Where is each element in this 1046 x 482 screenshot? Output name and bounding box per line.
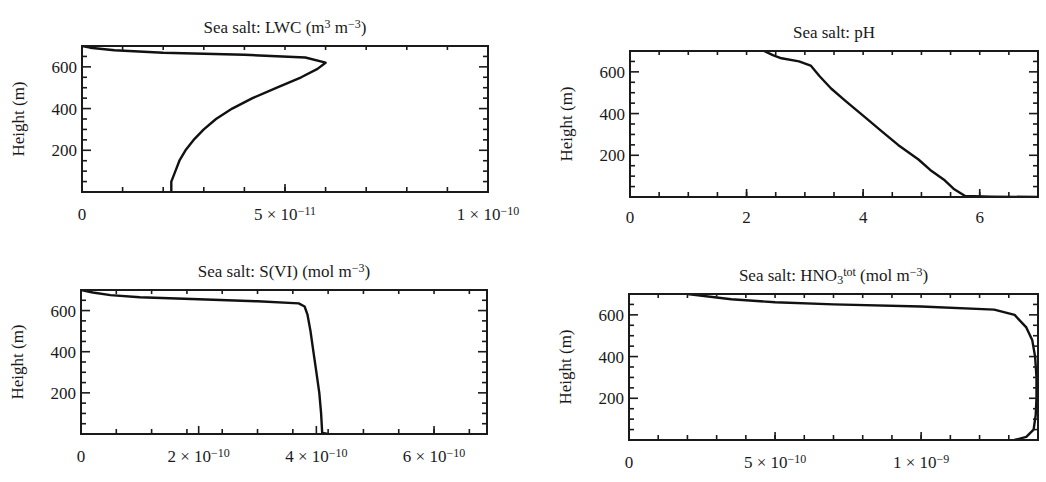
axes-frame xyxy=(630,51,1038,197)
x-tick-label: 2 × 10−10 xyxy=(167,446,229,466)
x-tick-label: 6 xyxy=(975,208,984,227)
panel-svi: Sea salt: S(VI) (mol m−3) 02 × 10−104 × … xyxy=(8,261,487,466)
y-axis-label: Height (m) xyxy=(8,324,27,399)
y-tick-label: 200 xyxy=(599,389,625,408)
x-tick-label: 6 × 10−10 xyxy=(403,446,465,466)
y-tick-label: 200 xyxy=(600,146,626,165)
x-tick-label: 4 xyxy=(859,208,868,227)
y-tick-label: 600 xyxy=(52,58,78,77)
axes-frame xyxy=(82,46,488,192)
panel-ph: Sea salt: pH 0246200400600Height (m) xyxy=(557,23,1038,227)
profile-curve xyxy=(81,290,328,434)
panel-title: Sea salt: LWC (m3 m−3) xyxy=(204,17,367,37)
x-tick-label: 0 xyxy=(77,447,86,466)
panel-title: Sea salt: S(VI) (mol m−3) xyxy=(198,261,370,281)
x-tick-label: 1 × 10−10 xyxy=(457,204,519,224)
x-tick-label: 5 × 10−10 xyxy=(744,452,806,472)
profile-curve xyxy=(764,51,1038,197)
panel-title: Sea salt: HNO3tot (mol m−3) xyxy=(739,265,928,287)
figure: Sea salt: LWC (m3 m−3) 05 × 10−111 × 10−… xyxy=(0,0,1046,482)
y-axis-label: Height (m) xyxy=(556,329,575,404)
y-tick-label: 600 xyxy=(600,63,626,82)
panel-lwc: Sea salt: LWC (m3 m−3) 05 × 10−111 × 10−… xyxy=(9,17,519,224)
panel-title: Sea salt: pH xyxy=(793,23,875,42)
axes-frame xyxy=(629,294,1038,440)
y-tick-label: 400 xyxy=(599,348,625,367)
y-tick-label: 200 xyxy=(52,141,78,160)
x-tick-label: 0 xyxy=(626,208,635,227)
y-tick-label: 400 xyxy=(600,105,626,124)
x-tick-label: 1 × 10−9 xyxy=(893,452,949,472)
y-tick-label: 200 xyxy=(51,384,77,403)
y-tick-label: 600 xyxy=(599,306,625,325)
profile-curve xyxy=(82,46,326,192)
x-tick-label: 0 xyxy=(625,453,634,472)
x-tick-label: 5 × 10−11 xyxy=(254,204,316,224)
x-tick-label: 4 × 10−10 xyxy=(285,446,347,466)
y-tick-label: 400 xyxy=(51,343,77,362)
axes-frame xyxy=(81,290,487,434)
x-tick-label: 0 xyxy=(78,205,87,224)
y-tick-label: 400 xyxy=(52,100,78,119)
y-axis-label: Height (m) xyxy=(9,81,28,156)
profile-curve xyxy=(687,294,1036,440)
y-tick-label: 600 xyxy=(51,302,77,321)
y-axis-label: Height (m) xyxy=(557,86,576,161)
panel-hno3: Sea salt: HNO3tot (mol m−3) 05 × 10−101 … xyxy=(556,265,1038,472)
x-tick-label: 2 xyxy=(742,208,751,227)
